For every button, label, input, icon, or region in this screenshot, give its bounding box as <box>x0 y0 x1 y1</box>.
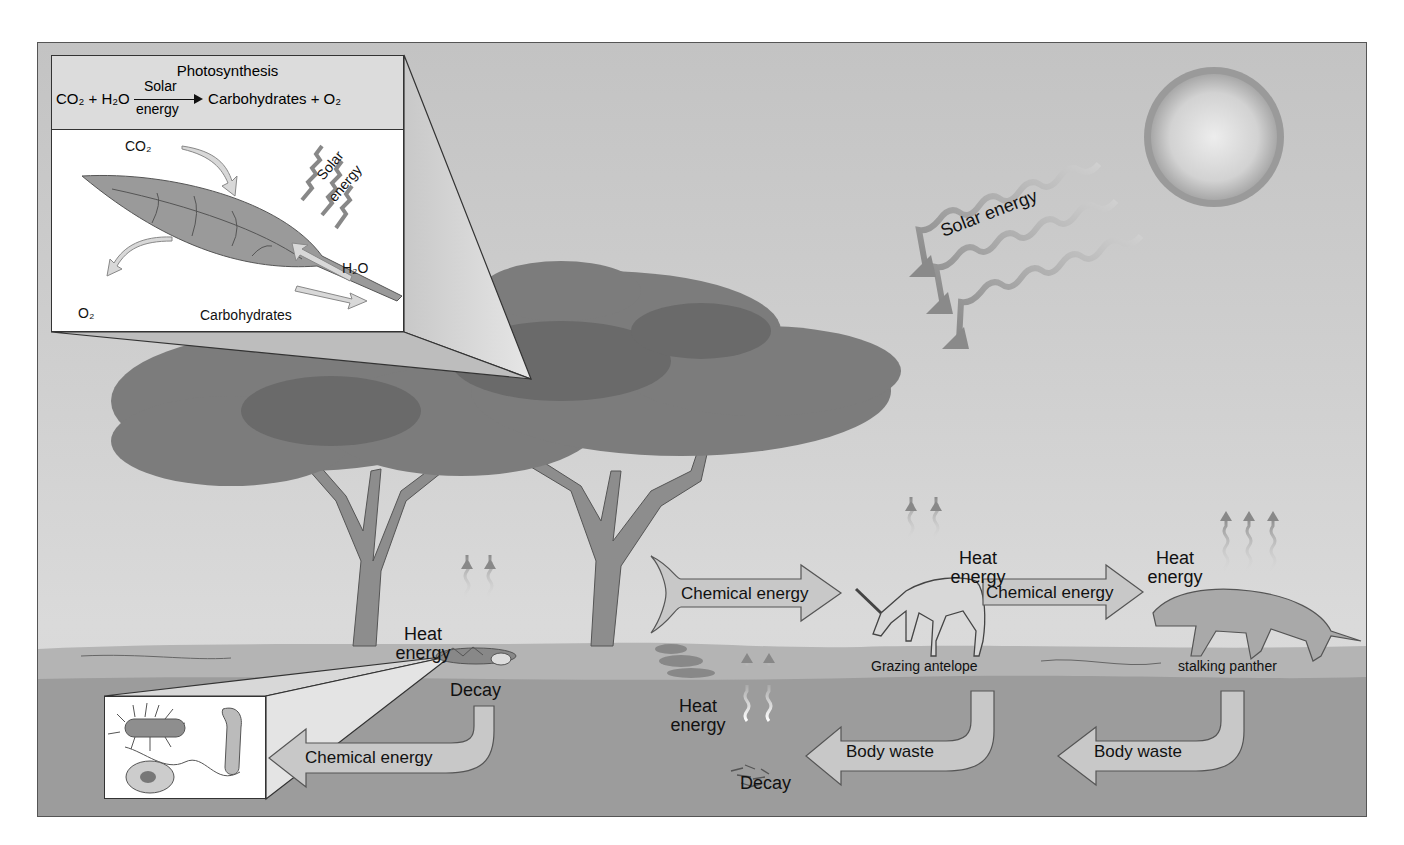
chemical-energy-label-2: Chemical energy <box>986 583 1114 602</box>
body-waste-label-2: Body waste <box>1094 742 1182 761</box>
bacteria-illustration <box>105 697 265 797</box>
antelope-figure <box>856 578 985 656</box>
equation-products: Carbohydrates + O₂ <box>208 90 341 107</box>
equation-reactants: CO₂ + H₂O <box>56 90 130 107</box>
photosynthesis-inset: Photosynthesis CO₂ + H₂O Solar energy Ca… <box>51 55 404 332</box>
chemical-energy-label-3: Chemical energy <box>305 748 433 767</box>
co2-label: CO₂ <box>125 137 151 156</box>
heat-energy-label-2: Heatenergy <box>943 549 1013 587</box>
decay-label-2: Decay <box>740 774 791 793</box>
photosynthesis-equation: CO₂ + H₂O Solar energy Carbohydrates + O… <box>56 90 341 109</box>
body-waste-label-1: Body waste <box>846 742 934 761</box>
equation-arrow: Solar energy <box>134 91 204 109</box>
diagram-frame: Photosynthesis CO₂ + H₂O Solar energy Ca… <box>37 42 1367 817</box>
sun-icon <box>1144 67 1284 207</box>
o2-label: O₂ <box>78 304 94 323</box>
arrow-right-icon <box>194 94 203 104</box>
heat-energy-label-4: Heatenergy <box>663 697 733 735</box>
decay-label-1: Decay <box>450 681 501 700</box>
antelope-label: Grazing antelope <box>871 657 978 676</box>
heat-energy-label-3: Heatenergy <box>1140 549 1210 587</box>
photosynthesis-header: Photosynthesis CO₂ + H₂O Solar energy Ca… <box>52 56 403 130</box>
decomposer-inset <box>104 696 266 799</box>
photosynthesis-title: Photosynthesis <box>52 62 403 79</box>
panther-label: stalking panther <box>1178 657 1277 676</box>
heat-energy-label-1: Heatenergy <box>388 625 458 663</box>
chemical-energy-label-1: Chemical energy <box>681 584 809 603</box>
carbohydrates-label: Carbohydrates <box>200 306 292 325</box>
h2o-label: H₂O <box>342 259 368 278</box>
